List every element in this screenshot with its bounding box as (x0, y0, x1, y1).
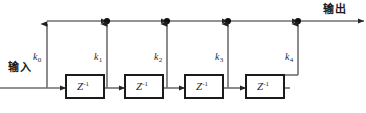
delay-block-3-label: Z-1 (196, 81, 208, 92)
summing-node-3 (225, 18, 231, 24)
tap-label-k2: k2 (154, 52, 162, 64)
tap-label-k1: k1 (94, 52, 102, 64)
tap-subscript-k1: 1 (98, 56, 102, 64)
input-label: 输入 (8, 62, 31, 73)
delay-block-4-label: Z-1 (257, 81, 269, 92)
tap-label-k3: k3 (215, 52, 223, 64)
delay-exponent-4: -1 (263, 80, 269, 88)
summing-node-4 (295, 18, 301, 24)
tap-subscript-k0: 0 (37, 56, 41, 64)
delay-exponent-3: -1 (202, 80, 208, 88)
tap-subscript-k2: 2 (158, 56, 162, 64)
tap-label-k4: k4 (285, 52, 293, 64)
fir-filter-diagram: 输入 输出 k0 k1 k2 k3 k4 Z-1 Z-1 Z-1 Z-1 (0, 0, 366, 113)
output-label: 输出 (323, 4, 346, 15)
tap-label-k0: k0 (33, 52, 41, 64)
delay-block-2-label: Z-1 (136, 81, 148, 92)
summing-node-1 (104, 18, 110, 24)
delay-block-outlines (66, 75, 284, 98)
delay-exponent-1: -1 (83, 80, 89, 88)
tap-subscript-k3: 3 (219, 56, 223, 64)
tap-subscript-k4: 4 (289, 56, 293, 64)
summing-node-2 (164, 18, 170, 24)
delay-exponent-2: -1 (142, 80, 148, 88)
delay-block-1-label: Z-1 (77, 81, 89, 92)
diagram-canvas (0, 0, 366, 113)
